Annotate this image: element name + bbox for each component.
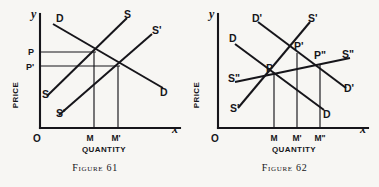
figure-62: y x O M M' M" PRICE QUANTITY D D D' D' S… bbox=[190, 0, 379, 187]
price-tick-P-61: P bbox=[28, 47, 34, 57]
demand-curve-D-61 bbox=[53, 24, 163, 88]
quantity-tick-Mprime-61: M' bbox=[111, 133, 120, 143]
equilibrium-label-P-62: P bbox=[266, 62, 273, 74]
curve-label-Sprime-bottom-62: S' bbox=[230, 102, 240, 114]
price-tick-Pprime-61: P' bbox=[26, 62, 34, 72]
y-axis-label-62: y bbox=[207, 7, 215, 21]
quantity-tick-Mprime-62: M' bbox=[292, 133, 301, 143]
curve-label-D-bottom-61: D bbox=[160, 86, 168, 98]
quantity-tick-M-61: M bbox=[86, 133, 93, 143]
curve-label-D-top-62: D bbox=[229, 32, 237, 44]
curve-label-Sprime-bottom-61: S' bbox=[56, 107, 66, 119]
curve-label-Sdoubleprime-left-62: S" bbox=[228, 72, 240, 84]
curve-label-S-top-61: S bbox=[124, 8, 131, 20]
origin-label-62: O bbox=[211, 133, 219, 144]
y-axis-label-61: y bbox=[29, 7, 37, 21]
origin-label-61: O bbox=[33, 133, 41, 144]
figure-62-plot: y x O M M' M" PRICE QUANTITY D D D' D' S… bbox=[190, 0, 379, 162]
curve-label-S-bottom-61: S bbox=[42, 88, 49, 100]
curve-label-Sprime-top-61: S' bbox=[152, 24, 162, 36]
curve-label-D-bottom-62: D bbox=[323, 108, 331, 120]
curve-label-Sdoubleprime-right-62: S" bbox=[342, 48, 354, 60]
curve-label-D-top-61: D bbox=[56, 12, 64, 24]
demand-curve-D-62 bbox=[235, 44, 324, 110]
x-axis-label-62: x bbox=[359, 122, 366, 136]
equilibrium-label-Pdoubleprime-62: P" bbox=[314, 49, 326, 61]
x-axis-label-61: x bbox=[171, 122, 178, 136]
x-axis-title-61: QUANTITY bbox=[82, 145, 126, 154]
equilibrium-label-Pprime-62: P' bbox=[294, 40, 304, 52]
quantity-tick-Mdoubleprime-62: M" bbox=[314, 133, 325, 143]
figure-61: y x O P P' M M' PRICE QUANTITY D D S S S… bbox=[0, 0, 190, 187]
curve-label-Dprime-bottom-62: D' bbox=[344, 82, 354, 94]
quantity-tick-M-62: M bbox=[270, 133, 277, 143]
curve-label-Sprime-top-62: S' bbox=[308, 12, 318, 24]
supply-curve-S-61 bbox=[47, 18, 127, 96]
y-axis-title-62: PRICE bbox=[192, 82, 201, 109]
figure-62-caption: Figure 62 bbox=[190, 162, 379, 173]
figure-61-plot: y x O P P' M M' PRICE QUANTITY D D S S S… bbox=[0, 0, 190, 162]
curve-label-Dprime-top-62: D' bbox=[252, 12, 262, 24]
figure-61-caption: Figure 61 bbox=[0, 162, 190, 173]
y-axis-title-61: PRICE bbox=[11, 82, 20, 109]
x-axis-title-62: QUANTITY bbox=[272, 145, 316, 154]
